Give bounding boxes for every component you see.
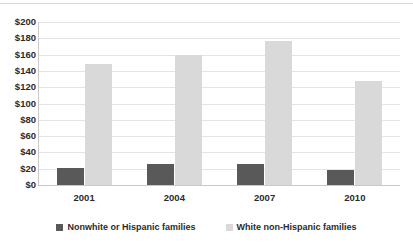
x-axis-tick-label: 2001 (39, 190, 129, 206)
legend-swatch-icon (226, 224, 233, 231)
top-divider (0, 3, 413, 4)
bar (175, 55, 202, 185)
y-axis-tick-label: $0 (2, 180, 36, 190)
y-axis-tick-label: $100 (2, 99, 36, 109)
y-axis-ticks: $200$180$160$140$120$100$80$60$40$20$0 (0, 22, 36, 185)
legend-entry: Nonwhite or Hispanic families (56, 223, 195, 232)
gridline (38, 185, 400, 186)
y-axis-tick-label: $40 (2, 147, 36, 157)
x-axis-tick-label: 2004 (129, 190, 219, 206)
bar (355, 81, 382, 185)
bar (237, 164, 264, 185)
bar (85, 64, 112, 185)
y-axis-tick-label: $20 (2, 164, 36, 174)
bar-groups (39, 22, 400, 185)
bar-group (310, 22, 400, 185)
legend-entry: White non-Hispanic families (226, 223, 357, 232)
legend-swatch-icon (56, 224, 63, 231)
x-axis-tick-label: 2007 (220, 190, 310, 206)
bar-group (129, 22, 219, 185)
legend-label: Nonwhite or Hispanic families (67, 223, 195, 232)
bar-group (220, 22, 310, 185)
y-axis-tick-label: $60 (2, 131, 36, 141)
x-axis-tick-label: 2010 (310, 190, 400, 206)
y-axis-tick-label: $80 (2, 115, 36, 125)
y-axis-tick-label: $200 (2, 17, 36, 27)
y-axis-tick-label: $160 (2, 50, 36, 60)
bar (265, 41, 292, 185)
chart-legend: Nonwhite or Hispanic familiesWhite non-H… (0, 219, 413, 235)
x-axis-ticks: 2001200420072010 (39, 190, 400, 206)
legend-label: White non-Hispanic families (237, 223, 357, 232)
y-axis-tick-label: $180 (2, 33, 36, 43)
bar (147, 164, 174, 185)
y-axis-tick-label: $140 (2, 66, 36, 76)
y-axis-tick-label: $120 (2, 82, 36, 92)
bar (57, 168, 84, 185)
bar-chart: $200$180$160$140$120$100$80$60$40$20$0 2… (0, 0, 413, 242)
bar (327, 170, 354, 185)
bar-group (39, 22, 129, 185)
